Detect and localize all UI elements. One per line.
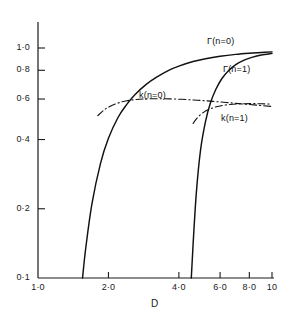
x-tick-label: 6·0: [207, 282, 233, 292]
curve-label-Γ(n=1): Γ(n=1): [223, 64, 250, 74]
x-tick-label: 4·0: [166, 282, 192, 292]
x-tick-label: 1·0: [25, 282, 51, 292]
curve-label-k(n=0): k(n=0): [139, 90, 166, 100]
axis-lines: [38, 22, 274, 278]
data-curves: [83, 52, 272, 278]
x-axis-ticks: [108, 272, 272, 278]
x-axis-title: D: [151, 298, 158, 309]
chart-plot-area: [0, 0, 285, 317]
y-tick-label: 0·1: [4, 272, 30, 282]
x-tick-label: 10: [259, 282, 285, 292]
y-tick-label: 0·8: [4, 64, 30, 74]
chart-figure: 1·00·80·60·40·20·1 1·02·04·06·08·010 Γ(n…: [0, 0, 285, 317]
y-tick-label: 0·2: [4, 203, 30, 213]
y-axis-ticks: [38, 48, 45, 209]
y-tick-label: 0·4: [4, 134, 30, 144]
y-tick-label: 1·0: [4, 42, 30, 52]
x-tick-label: 2·0: [95, 282, 121, 292]
y-tick-label: 0·6: [4, 93, 30, 103]
curve-Γ(n=1): [191, 53, 272, 278]
curve-label-Γ(n=0): Γ(n=0): [207, 36, 234, 46]
curve-Γ(n=0): [83, 52, 272, 278]
curve-label-k(n=1): k(n=1): [221, 113, 248, 123]
